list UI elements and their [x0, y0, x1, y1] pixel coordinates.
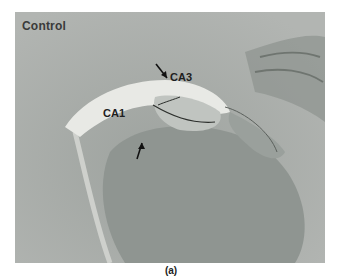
region-label-ca3: CA3 [170, 71, 192, 83]
figure-caption: (a) [0, 265, 342, 276]
micrograph-figure: Control CA3 CA1 [15, 12, 325, 263]
brain-section-illustration [15, 12, 325, 263]
region-label-ca1: CA1 [103, 107, 125, 119]
panel-label: Control [22, 19, 66, 33]
